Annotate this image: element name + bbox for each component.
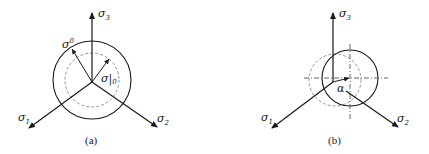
svg-text:σ2: σ2 bbox=[397, 112, 410, 127]
alpha-label: α bbox=[337, 82, 345, 95]
caption-b: (b) bbox=[328, 134, 341, 147]
panel-b: σ3 σ1 σ2 α (b) bbox=[261, 7, 410, 147]
panel-a: σ3 σ1 σ2 σ0 σ|0 (a) bbox=[18, 7, 170, 147]
caption-a: (a) bbox=[85, 134, 98, 147]
svg-text:σ0: σ0 bbox=[62, 37, 75, 51]
svg-text:σ|0: σ|0 bbox=[101, 72, 117, 86]
svg-text:σ1: σ1 bbox=[18, 111, 30, 126]
sigma2-axis bbox=[346, 91, 398, 127]
svg-text:σ3: σ3 bbox=[339, 7, 352, 22]
yield-surface-diagram: σ3 σ1 σ2 σ0 σ|0 (a) σ3 σ1 σ2 α (b) bbox=[0, 0, 429, 154]
sigma1-axis bbox=[272, 82, 333, 128]
initial-dashed-circle bbox=[309, 54, 361, 106]
sigma2-axis bbox=[92, 82, 157, 127]
sigma-zero-arrow bbox=[72, 49, 92, 82]
diagram-svg: σ3 σ1 σ2 σ0 σ|0 (a) σ3 σ1 σ2 α (b) bbox=[0, 0, 429, 154]
svg-text:σ3: σ3 bbox=[98, 7, 111, 22]
svg-text:σ1: σ1 bbox=[261, 111, 273, 126]
svg-text:σ2: σ2 bbox=[157, 112, 170, 127]
